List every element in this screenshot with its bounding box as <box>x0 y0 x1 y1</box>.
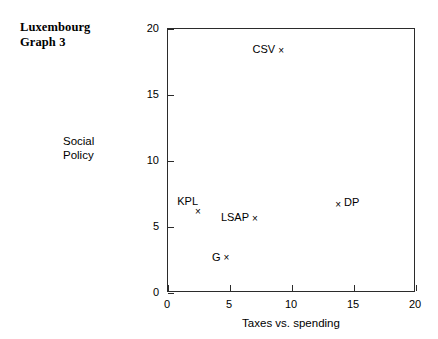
x-axis-tick <box>292 285 293 291</box>
x-axis-tick <box>354 285 355 291</box>
cross-marker-icon: × <box>277 46 285 55</box>
x-axis-tick <box>230 285 231 291</box>
data-point-label: CSV <box>252 44 275 55</box>
cross-marker-icon: × <box>223 253 231 262</box>
data-point-label: LSAP <box>221 212 249 223</box>
y-axis-tick-label: 20 <box>125 23 159 34</box>
y-axis-tick <box>168 293 174 294</box>
y-axis-tick-label: 0 <box>125 287 159 298</box>
y-axis-tick <box>168 95 174 96</box>
cross-marker-icon: × <box>194 207 202 216</box>
plot-area <box>167 28 415 292</box>
x-axis-tick <box>168 285 169 291</box>
x-axis-tick-label: 10 <box>271 299 311 310</box>
y-axis-tick <box>168 29 174 30</box>
data-point-label: KPL <box>177 196 198 207</box>
y-axis-tick <box>168 227 174 228</box>
x-axis-tick <box>416 285 417 291</box>
data-point-label: G <box>212 252 221 263</box>
x-axis-tick-label: 0 <box>147 299 187 310</box>
y-axis-tick-label: 10 <box>125 155 159 166</box>
x-axis-title: Taxes vs. spending <box>167 317 415 329</box>
y-axis-tick <box>168 161 174 162</box>
x-axis-tick-label: 15 <box>333 299 373 310</box>
y-axis-tick-label: 15 <box>125 89 159 100</box>
cross-marker-icon: × <box>251 214 259 223</box>
data-point-label: DP <box>344 197 359 208</box>
y-axis-tick-label: 5 <box>125 221 159 232</box>
x-axis-tick-label: 5 <box>209 299 249 310</box>
x-axis-tick-label: 20 <box>395 299 435 310</box>
chart-page: Luxembourg Graph 3 Social Policy 0510152… <box>0 0 438 339</box>
y-axis-title: Social Policy <box>63 134 133 162</box>
page-title: Luxembourg Graph 3 <box>20 20 90 49</box>
cross-marker-icon: × <box>334 200 342 209</box>
